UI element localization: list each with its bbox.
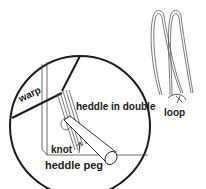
warp-thread-upper [62, 56, 80, 91]
label-knot: knot [51, 145, 72, 155]
knot-arrow-icon [77, 142, 82, 153]
label-heddle-peg: heddle peg [45, 160, 103, 171]
label-loop: loop [164, 108, 185, 118]
label-heddle-in-double: heddle in double [76, 102, 155, 112]
double-heddle-loop-icon [151, 10, 193, 103]
